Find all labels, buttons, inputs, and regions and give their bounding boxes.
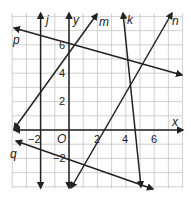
label-j: j bbox=[44, 13, 49, 27]
label-n: n bbox=[172, 14, 179, 28]
x-tick-6: 6 bbox=[151, 133, 157, 145]
x-tick-2: 2 bbox=[94, 133, 100, 145]
y-tick-6: 6 bbox=[59, 39, 65, 51]
line-n bbox=[71, 13, 172, 188]
x-tick-neg2: −2 bbox=[28, 133, 41, 145]
x-axis-label: x bbox=[171, 115, 179, 129]
label-k: k bbox=[127, 13, 134, 27]
label-m: m bbox=[99, 15, 109, 29]
coordinate-graph: j k m n p q y x O −2 2 4 6 6 4 2 −2 bbox=[0, 0, 191, 202]
label-q: q bbox=[10, 147, 17, 161]
x-tick-4: 4 bbox=[122, 133, 128, 145]
y-axis-label: y bbox=[72, 13, 80, 27]
line-p bbox=[14, 28, 182, 75]
y-tick-2: 2 bbox=[59, 95, 65, 107]
origin-label: O bbox=[57, 132, 66, 146]
y-tick-neg2: −2 bbox=[53, 152, 66, 164]
line-q bbox=[16, 141, 153, 189]
graph-svg: j k m n p q y x O −2 2 4 6 6 4 2 −2 bbox=[0, 0, 191, 202]
y-tick-4: 4 bbox=[59, 67, 65, 79]
label-p: p bbox=[12, 33, 20, 47]
